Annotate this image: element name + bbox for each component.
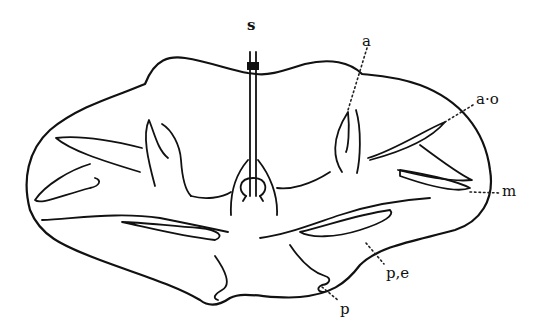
- central-bulb-feet: [243, 196, 263, 201]
- label-ao: a·o: [476, 92, 499, 107]
- right-horn-link: [277, 172, 330, 188]
- right-lower-lobe: [260, 198, 430, 238]
- right-horn-outer: [356, 110, 360, 173]
- cross-section-drawing: [0, 0, 536, 334]
- leader-a: [348, 48, 367, 110]
- label-pe: p,e: [386, 266, 409, 281]
- stylet-collar: [247, 62, 259, 70]
- left-upper-lobe: [56, 137, 142, 172]
- left-lower-lobe: [42, 215, 228, 232]
- left-lower-slot: [122, 222, 220, 240]
- label-s: s: [247, 18, 255, 33]
- left-horn-link: [191, 192, 231, 198]
- right-horn-inner: [335, 112, 349, 172]
- label-a: a: [362, 34, 371, 49]
- label-m: m: [502, 184, 516, 199]
- outer-body-outline: [27, 57, 491, 304]
- cross-section-figure: s a a·o m p,e p: [0, 0, 536, 334]
- leader-pe: [366, 243, 384, 264]
- bottom-projection: [215, 245, 329, 300]
- right-middle-lobe: [398, 145, 472, 181]
- left-horn-inner: [146, 120, 168, 186]
- label-p: p: [340, 302, 350, 317]
- leader-m: [470, 192, 500, 193]
- central-bulb: [231, 160, 277, 215]
- left-horn-outer: [162, 124, 191, 196]
- left-middle-lobe: [35, 164, 99, 201]
